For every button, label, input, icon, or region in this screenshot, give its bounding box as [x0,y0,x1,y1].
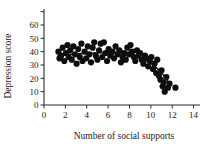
scatter-plot-figure: 0102030405060 02468101214 Depression sco… [0,0,208,147]
y-tick-label: 20 [30,74,40,84]
data-point [154,57,160,63]
y-tick-label: 60 [30,20,40,30]
data-point [172,85,178,91]
x-tick-label: 14 [189,110,199,120]
data-point [75,46,81,52]
x-tick-label: 2 [63,110,68,120]
y-tick-label: 50 [30,34,40,44]
data-point [69,57,75,63]
x-tick-label: 6 [106,110,111,120]
y-axis-title: Depression score [3,33,13,98]
data-point [132,58,138,64]
data-point [64,42,70,48]
data-point [161,79,167,85]
y-tick-label: 0 [34,100,39,110]
data-point [90,45,96,51]
x-tick-label: 0 [42,110,47,120]
data-point [127,42,133,48]
x-axis: 02468101214 [42,105,200,120]
x-tick-label: 10 [146,110,156,120]
y-tick-label: 10 [30,87,40,97]
y-tick-label: 30 [30,60,40,70]
x-axis-title: Number of social supports [74,131,175,141]
data-point [88,59,94,65]
chart-canvas: 0102030405060 02468101214 Depression sco… [0,0,208,147]
data-point [148,54,154,60]
data-point [101,39,107,45]
data-point [78,41,84,47]
data-point [109,49,115,55]
data-points [55,39,178,95]
data-point [86,51,92,57]
data-point [73,61,79,67]
data-point [123,57,129,63]
y-axis: 0102030405060 [30,9,45,110]
y-tick-label: 40 [30,47,40,57]
x-tick-label: 8 [127,110,132,120]
x-tick-label: 4 [84,110,89,120]
data-point [91,39,97,45]
x-tick-label: 12 [168,110,177,120]
data-point [104,58,110,64]
